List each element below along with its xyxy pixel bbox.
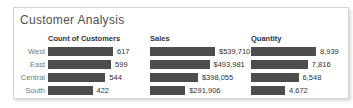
bar-sales-central[interactable]: [150, 73, 198, 82]
column-header-quantity[interactable]: Quantity: [251, 34, 343, 43]
bar-value-label: 7,816: [312, 60, 331, 69]
bar-quantity-west[interactable]: [251, 47, 316, 56]
bar-count-south[interactable]: [48, 86, 93, 95]
bar-value-label: $291,906: [189, 86, 220, 95]
chart-row-south: South 422 $291,906 4,672: [20, 84, 350, 97]
bar-value-label: 422: [97, 86, 110, 95]
bar-value-label: 617: [117, 47, 130, 56]
bar-value-label: 544: [109, 73, 122, 82]
customer-analysis-card: Customer Analysis Count of Customers Sal…: [13, 7, 349, 99]
bar-value-label: 4,672: [289, 86, 308, 95]
bar-count-east[interactable]: [48, 60, 111, 69]
row-label-central: Central: [20, 73, 48, 82]
bar-count-west[interactable]: [48, 47, 113, 56]
row-label-east: East: [20, 60, 48, 69]
bar-value-label: $493,981: [214, 60, 245, 69]
column-header-sales[interactable]: Sales: [150, 34, 251, 43]
page-title: Customer Analysis: [20, 13, 348, 27]
bar-chart: Count of Customers Sales Quantity West 6…: [20, 33, 350, 97]
bar-value-label: 599: [115, 60, 128, 69]
bar-value-label: $539,710: [219, 47, 250, 56]
chart-row-central: Central 544 $398,055 6,548: [20, 71, 350, 84]
column-header-row: Count of Customers Sales Quantity: [20, 33, 350, 44]
bar-sales-west[interactable]: [150, 47, 215, 56]
row-label-west: West: [20, 47, 48, 56]
chart-row-east: East 599 $493,981 7,816: [20, 58, 350, 71]
chart-row-west: West 617 $539,710 8,939: [20, 45, 350, 58]
bar-value-label: 8,939: [320, 47, 339, 56]
bar-quantity-east[interactable]: [251, 60, 308, 69]
column-header-count-of-customers[interactable]: Count of Customers: [48, 34, 150, 43]
bar-value-label: $398,055: [202, 73, 233, 82]
bar-quantity-south[interactable]: [251, 86, 285, 95]
bar-sales-east[interactable]: [150, 60, 210, 69]
bar-sales-south[interactable]: [150, 86, 185, 95]
bar-count-central[interactable]: [48, 73, 105, 82]
bar-value-label: 6,548: [303, 73, 322, 82]
bar-quantity-central[interactable]: [251, 73, 299, 82]
row-label-south: South: [20, 86, 48, 95]
